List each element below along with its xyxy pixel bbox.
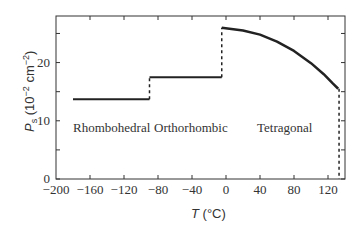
y-tick-label: 20 xyxy=(37,55,50,70)
x-tick-label: −160 xyxy=(77,182,104,197)
phase-label-orthorhombic: Orthorhombic xyxy=(154,120,228,135)
phase-label-rhombohedral: Rhombohedral xyxy=(73,120,151,135)
x-tick-label: −80 xyxy=(148,182,168,197)
x-axis-tick-labels: −200−160−120−80−4004080120 xyxy=(43,182,338,197)
ps-curve xyxy=(73,28,339,179)
plot-frame xyxy=(56,16,345,179)
x-tick-label: 80 xyxy=(288,182,301,197)
tetragonal-curve xyxy=(222,28,338,89)
chart: −200−160−120−80−4004080120 01020 Rhomboh… xyxy=(0,0,363,225)
x-axis-label: T (°C) xyxy=(191,206,226,221)
x-tick-label: 120 xyxy=(318,182,338,197)
phase-label-tetragonal: Tetragonal xyxy=(257,120,313,135)
x-tick-label: −120 xyxy=(111,182,138,197)
x-axis-ticks xyxy=(90,16,328,179)
y-tick-label: 0 xyxy=(44,171,51,186)
x-tick-label: −40 xyxy=(182,182,202,197)
x-tick-label: 40 xyxy=(254,182,267,197)
x-tick-label: 0 xyxy=(223,182,230,197)
